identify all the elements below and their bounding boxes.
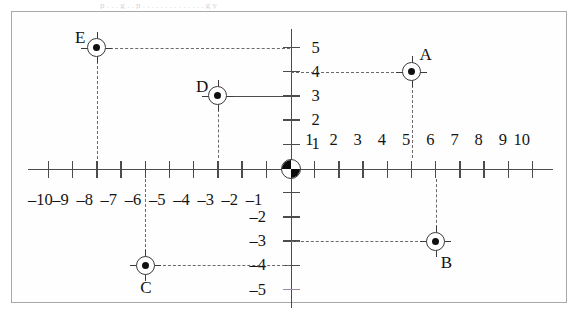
point-D xyxy=(208,86,227,105)
point-label-C: C xyxy=(140,279,151,296)
origin-marker xyxy=(281,159,301,179)
guide-v-C xyxy=(145,179,146,253)
x-tick-5 xyxy=(411,161,412,178)
x-tick-label-9: 9 xyxy=(499,132,507,149)
x-tick-1 xyxy=(314,161,315,178)
x-tick--7 xyxy=(120,161,121,178)
y-tick-label--3: –3 xyxy=(250,233,267,250)
x-tick-4 xyxy=(387,161,388,178)
y-tick-label-2: 2 xyxy=(312,112,320,129)
x-tick--5 xyxy=(169,161,170,178)
guide-h-C xyxy=(158,265,290,266)
x-tick-label--1: –1 xyxy=(246,192,263,209)
y-tick-label-3: 3 xyxy=(312,88,320,105)
x-tick--4 xyxy=(193,161,194,178)
x-tick-label--2: –2 xyxy=(222,192,239,209)
y-tick--1 xyxy=(283,192,300,193)
x-tick-label-5: 5 xyxy=(402,132,410,149)
x-tick-label--7: –7 xyxy=(101,192,118,209)
guide-v-E xyxy=(97,61,98,159)
point-A xyxy=(402,62,421,81)
x-tick--3 xyxy=(217,161,218,178)
point-label-A: A xyxy=(420,46,432,63)
x-tick-label--9: –9 xyxy=(52,192,69,209)
y-tick-2 xyxy=(283,119,300,120)
coordinate-plane-figure: p . . . g . . p . . . . . . . . . . . . … xyxy=(0,0,580,315)
x-tick-label-4: 4 xyxy=(378,132,386,149)
plot-area: –10–9–8–7–6–5–4–3–2–11234567891054321–2–… xyxy=(0,0,580,315)
x-tick-label-6: 6 xyxy=(426,132,434,149)
x-tick-label--4: –4 xyxy=(173,192,190,209)
x-tick--1 xyxy=(266,161,267,178)
x-tick-label--10: –10 xyxy=(28,192,53,209)
x-tick-label--3: –3 xyxy=(197,192,214,209)
x-tick--8 xyxy=(96,161,97,178)
x-tick-label-7: 7 xyxy=(450,132,458,149)
guide-v-D xyxy=(218,109,219,159)
x-tick-7 xyxy=(459,161,460,178)
x-tick-9 xyxy=(508,161,509,178)
x-tick-label--5: –5 xyxy=(149,192,166,209)
y-tick-label-1: 1 xyxy=(312,136,320,153)
x-tick--10 xyxy=(48,161,49,178)
point-label-E: E xyxy=(75,29,85,46)
guide-h-E xyxy=(110,48,291,49)
guide-v-B xyxy=(436,179,437,229)
point-B xyxy=(426,232,445,251)
x-tick-label-2: 2 xyxy=(329,132,337,149)
x-tick-label--8: –8 xyxy=(76,192,93,209)
y-tick-label-5: 5 xyxy=(312,40,320,57)
y-tick--5 xyxy=(283,289,300,290)
x-tick-6 xyxy=(435,161,436,178)
guide-h-A xyxy=(291,72,399,73)
x-tick-2 xyxy=(338,161,339,178)
y-tick-label--5: –5 xyxy=(250,282,267,299)
x-tick-3 xyxy=(362,161,363,178)
guide-h-D xyxy=(231,96,291,97)
point-label-B: B xyxy=(441,254,452,271)
y-tick--2 xyxy=(283,216,300,217)
x-tick--9 xyxy=(72,161,73,178)
y-tick-label--2: –2 xyxy=(250,209,267,226)
x-tick-8 xyxy=(483,161,484,178)
x-tick-label-3: 3 xyxy=(354,132,362,149)
point-label-D: D xyxy=(196,78,208,95)
x-tick--2 xyxy=(241,161,242,178)
x-tick-label-8: 8 xyxy=(475,132,483,149)
point-E xyxy=(87,38,106,57)
x-tick-10 xyxy=(532,161,533,178)
x-tick-label--6: –6 xyxy=(125,192,142,209)
x-tick--6 xyxy=(145,161,146,178)
guide-h-B xyxy=(291,241,423,242)
y-tick-1 xyxy=(283,144,300,145)
x-tick-label-10: 10 xyxy=(514,132,531,149)
point-C xyxy=(136,256,155,275)
guide-v-A xyxy=(412,85,413,159)
